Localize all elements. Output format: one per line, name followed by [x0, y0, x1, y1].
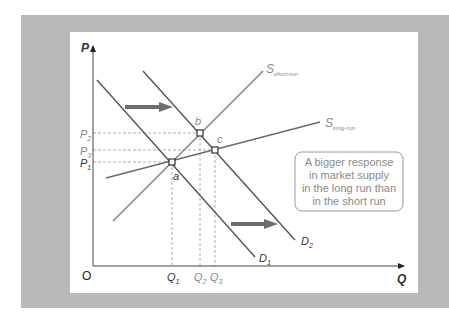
supply-long-run-label: Slong-run	[325, 116, 356, 131]
guide-lines	[93, 133, 215, 266]
price-label-p2: P2	[80, 128, 91, 142]
quantity-label-q3: Q3	[210, 271, 223, 285]
supply-short-run-curve	[113, 71, 263, 221]
quantity-label-q2: Q2	[194, 271, 207, 285]
demand-shift-arrow-bottom	[231, 219, 278, 229]
demand-2-curve	[143, 71, 295, 240]
point-c-marker	[212, 147, 218, 153]
point-b-marker	[197, 130, 203, 136]
point-b-label: b	[195, 115, 201, 127]
annotation-line-2: in market supply	[309, 169, 390, 181]
annotation-line-3: in the long run than	[302, 182, 396, 194]
demand-shift-arrow-top	[125, 102, 173, 112]
point-c-label: c	[217, 133, 223, 145]
annotation-box: A bigger response in market supply in th…	[295, 152, 403, 211]
demand-1-label: D1	[259, 252, 271, 266]
supply-demand-diagram: P Q O P2 P3 P1 Q1 Q2 Q3 a b c Sshort-run…	[0, 0, 449, 325]
origin-label: O	[82, 269, 91, 283]
price-label-p1: P1	[80, 157, 91, 171]
y-axis-label: P	[81, 41, 90, 55]
demand-2-label: D2	[301, 235, 313, 249]
point-a-marker	[169, 159, 175, 165]
supply-short-run-label: Sshort-run	[266, 62, 299, 77]
annotation-line-4: in the short run	[312, 195, 385, 207]
x-axis-label: Q	[397, 272, 407, 286]
annotation-line-1: A bigger response	[305, 156, 394, 168]
point-a-label: a	[173, 170, 179, 182]
quantity-label-q1: Q1	[167, 271, 180, 285]
